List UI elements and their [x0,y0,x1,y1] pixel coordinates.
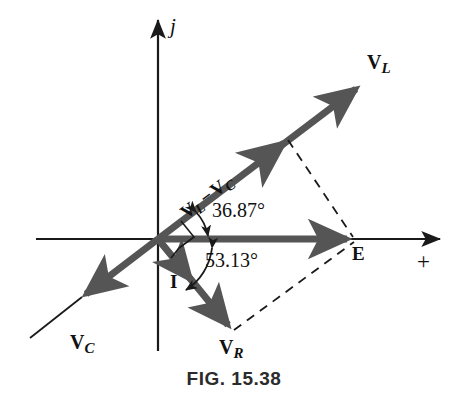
label-vl-main: V [367,51,381,73]
axis-label-plus: + [417,250,430,273]
label-vr-sub: R [233,345,243,361]
dashed-line-upper [288,140,353,237]
label-vr-main: V [219,336,233,358]
label-current-i: I [170,272,177,291]
vector-vl-minus-vc-tip [262,143,284,160]
vector-vc [86,239,158,294]
figure-caption: FIG. 15.38 [0,368,468,390]
label-source-e: E [352,244,365,263]
label-vc-sub: C [84,340,94,356]
label-vl: VL [367,52,391,76]
label-vc: VC [70,332,94,356]
label-vl-sub: L [381,60,390,76]
label-vr: VR [219,337,243,361]
axis-label-j: j [170,16,176,37]
label-vc-main: V [70,331,84,353]
figure-container: j + VL VC VR I E 36.87° 53.13° VL−VC FIG… [0,0,468,404]
angle-label-lower: 53.13° [205,250,258,270]
